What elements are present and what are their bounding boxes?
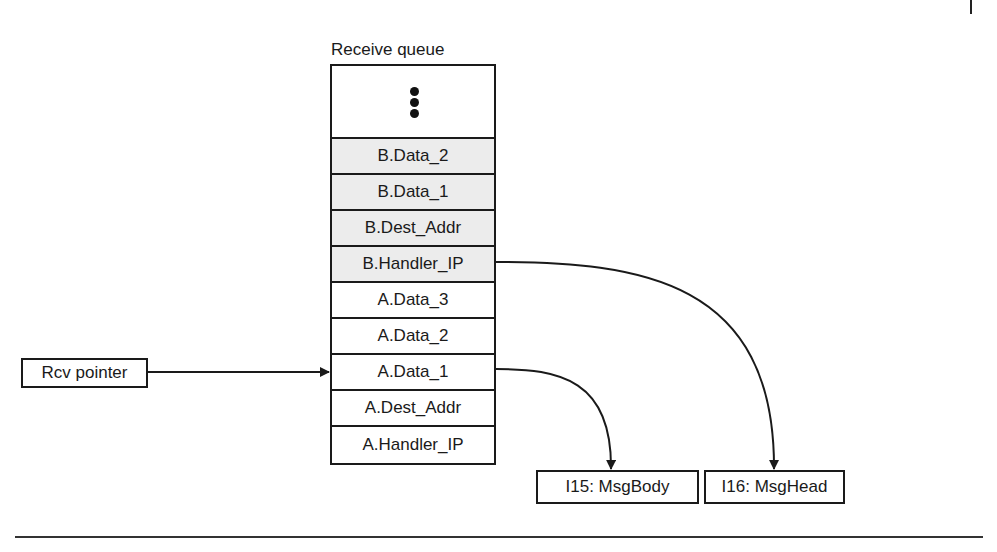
bottom-divider-rule	[15, 536, 983, 538]
msghead-arrow	[496, 262, 774, 469]
msgbody-arrow	[496, 369, 611, 469]
connector-arrows	[0, 0, 997, 552]
